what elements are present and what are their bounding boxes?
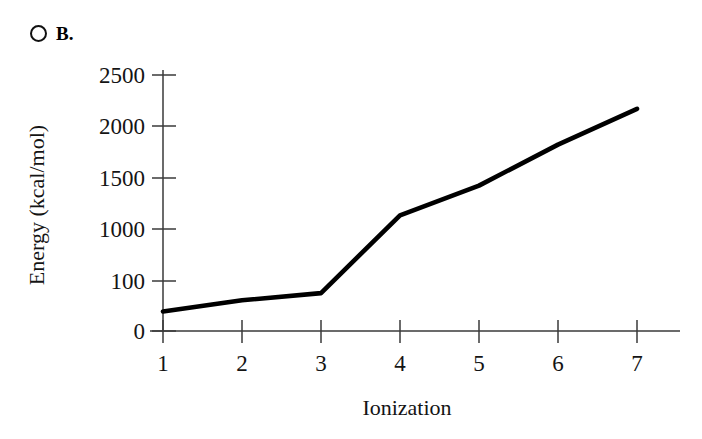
x-tick-label-6: 6: [552, 351, 564, 376]
x-tick-label-5: 5: [473, 351, 485, 376]
x-tick-label-1: 1: [157, 351, 169, 376]
y-tick-label-0: 0: [134, 319, 146, 344]
y-tick-label-100: 100: [111, 269, 146, 294]
y-axis-title: Energy (kcal/mol): [24, 125, 49, 285]
x-tick-label-7: 7: [631, 351, 643, 376]
data-series-line: [163, 109, 637, 312]
chart-canvas: 2500 2000 1500 1000 100 0 1 2 3 4 5 6 7 …: [0, 0, 702, 439]
y-tick-label-1500: 1500: [99, 166, 145, 191]
x-tick-label-4: 4: [394, 351, 406, 376]
y-tick-label-2000: 2000: [99, 114, 145, 139]
x-tick-label-3: 3: [315, 351, 327, 376]
y-axis-ticks: [152, 75, 176, 331]
x-tick-label-2: 2: [236, 351, 248, 376]
ionization-energy-chart: 2500 2000 1500 1000 100 0 1 2 3 4 5 6 7 …: [0, 0, 702, 439]
y-tick-label-2500: 2500: [99, 63, 145, 88]
x-axis-title: Ionization: [362, 395, 451, 420]
y-tick-label-1000: 1000: [99, 217, 145, 242]
